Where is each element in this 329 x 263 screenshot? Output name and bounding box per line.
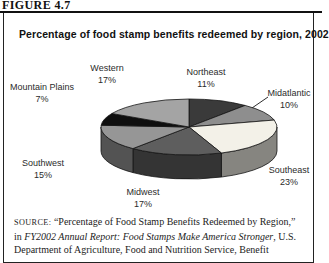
pie-label-midwest: Midwest17% bbox=[126, 186, 159, 210]
pie-label-region: Southwest bbox=[22, 157, 64, 169]
pie-label-region: Southeast bbox=[269, 164, 310, 176]
pie-label-region: Mountain Plains bbox=[10, 81, 74, 93]
pie-label-percent: 17% bbox=[90, 74, 123, 86]
pie-label-region: Western bbox=[90, 62, 123, 74]
pie-label-percent: 10% bbox=[267, 99, 310, 111]
pie-label-percent: 17% bbox=[126, 198, 159, 210]
pie-label-region: Midwest bbox=[126, 186, 159, 198]
pie-label-percent: 11% bbox=[186, 78, 225, 90]
leader-line-midatlantic bbox=[252, 97, 268, 108]
pie-label-western: Western17% bbox=[90, 62, 123, 86]
pie-label-mountain-plains: Mountain Plains7% bbox=[10, 81, 74, 105]
pie-label-percent: 7% bbox=[10, 93, 74, 105]
pie-label-region: Northeast bbox=[186, 66, 225, 78]
pie-label-percent: 23% bbox=[269, 176, 310, 188]
pie-label-midatlantic: Midatlantic10% bbox=[267, 87, 310, 111]
pie-label-region: Midatlantic bbox=[267, 87, 310, 99]
pie-label-northeast: Northeast11% bbox=[186, 66, 225, 90]
pie-label-southeast: Southeast23% bbox=[269, 164, 310, 188]
pie-label-southwest: Southwest15% bbox=[22, 157, 64, 181]
pie-label-percent: 15% bbox=[22, 169, 64, 181]
